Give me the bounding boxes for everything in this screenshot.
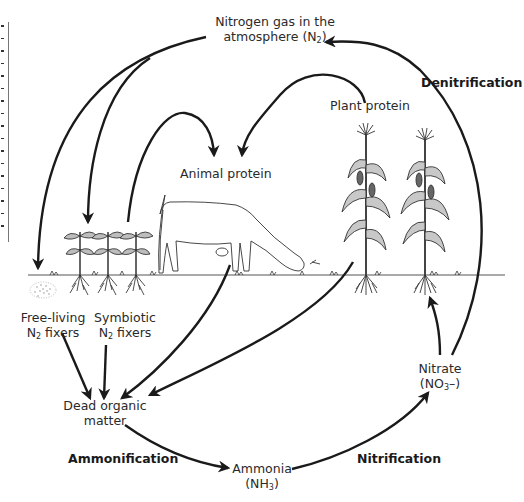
process-ammonification: Ammonification (68, 451, 178, 466)
node-plant-protein: Plant protein (330, 98, 410, 113)
legume-plants-icon (64, 232, 153, 295)
node-animal-protein: Animal protein (180, 166, 270, 181)
node-atmosphere: Nitrogen gas in the atmosphere (N2) (205, 14, 345, 44)
arrow-nitrate-to-plant (430, 298, 440, 355)
node-dead-organic-matter: Dead organic matter (60, 398, 150, 428)
process-denitrification: Denitrification (421, 75, 522, 90)
node-symbiotic-fixers: Symbiotic N2 fixers (90, 310, 160, 340)
grass-tufts-icon (50, 271, 461, 275)
cow-icon (159, 195, 320, 273)
arrow-plant-protein-to-animal-protein (242, 75, 365, 155)
arrow-atmosphere-to-symbiotic (88, 58, 150, 222)
arrow-plant-protein-to-dead-organic (150, 262, 353, 395)
atmosphere-line2: atmosphere (N2) (205, 29, 345, 44)
node-ammonia: Ammonia (NH3) (232, 461, 292, 491)
process-nitrification: Nitrification (357, 451, 441, 466)
arrow-symbiotic-to-dead-organic (104, 345, 106, 398)
atmosphere-line1: Nitrogen gas in the (205, 14, 345, 29)
node-free-living-fixers: Free-living N2 fixers (18, 310, 88, 340)
corn-plants-icon (342, 123, 449, 295)
node-nitrate: Nitrate (NO3–) (415, 361, 465, 391)
free-living-bacteria-icon (30, 282, 56, 298)
arrow-free-living-to-dead-organic (62, 333, 90, 398)
